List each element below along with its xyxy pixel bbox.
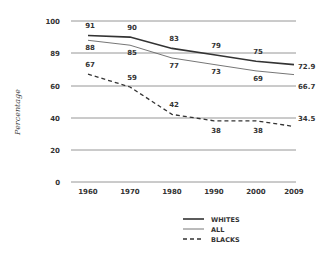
series-lines [88, 36, 294, 127]
data-label-whites: 90 [127, 24, 137, 32]
data-label-all: 77 [169, 62, 179, 70]
y-tick-label: 40 [50, 115, 60, 123]
data-label-whites: 75 [253, 48, 263, 56]
y-tick-label: 100 [45, 18, 60, 26]
y-tick-label: 20 [50, 147, 60, 155]
data-label-all: 88 [85, 44, 95, 52]
x-axis-ticks: 196019701980199020002009 [78, 188, 304, 196]
legend-label-whites: WHITES [211, 216, 240, 224]
data-label-all: 85 [127, 49, 137, 57]
y-tick-label: 60 [50, 83, 60, 91]
legend-item-all: ALL [183, 226, 224, 234]
data-label-blacks: 42 [169, 101, 179, 109]
series-line-blacks [88, 74, 294, 126]
y-axis-label: Percentage [13, 89, 22, 136]
x-tick-label: 1990 [204, 188, 224, 196]
x-tick-label: 1960 [78, 188, 98, 196]
data-label-all: 69 [253, 75, 263, 83]
x-tick-label: 2009 [284, 188, 304, 196]
series-line-all [88, 40, 294, 74]
legend-label-blacks: BLACKS [211, 236, 240, 244]
x-tick-label: 1980 [162, 188, 182, 196]
data-label-blacks: 67 [85, 61, 95, 69]
data-label-whites: 79 [211, 42, 221, 50]
y-tick-label: 0 [55, 179, 60, 187]
data-label-whites: 91 [85, 22, 95, 30]
y-tick-label: 89 [50, 50, 60, 58]
data-label-blacks: 59 [127, 74, 137, 82]
series-line-whites [88, 36, 294, 65]
legend-item-whites: WHITES [183, 216, 240, 224]
data-label-all: 66.7 [298, 83, 315, 91]
legend-label-all: ALL [211, 226, 224, 234]
x-tick-label: 2000 [246, 188, 266, 196]
line-chart: 100896040200 196019701980199020002009 Pe… [0, 0, 328, 261]
data-label-blacks: 34.5 [298, 115, 315, 123]
data-label-blacks: 38 [253, 127, 263, 135]
data-label-all: 73 [211, 68, 221, 76]
x-tick-label: 1970 [120, 188, 140, 196]
data-label-whites: 83 [169, 35, 179, 43]
legend-item-blacks: BLACKS [183, 236, 240, 244]
data-label-whites: 72.9 [298, 63, 315, 71]
y-axis-ticks: 100896040200 [45, 18, 60, 187]
data-label-blacks: 38 [211, 127, 221, 135]
legend: WHITES ALL BLACKS [183, 216, 240, 244]
gridlines [71, 21, 296, 182]
